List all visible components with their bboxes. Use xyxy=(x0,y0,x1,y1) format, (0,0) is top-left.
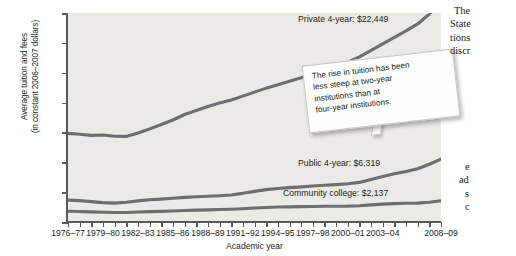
x-tick xyxy=(441,222,442,227)
x-tick xyxy=(185,222,186,227)
x-tick xyxy=(115,222,116,227)
x-tick xyxy=(173,222,174,227)
x-tick xyxy=(103,222,104,227)
body-text-bottom: e ad s c xyxy=(450,160,516,214)
x-tick xyxy=(348,222,349,227)
x-tick-label: 1997–98 xyxy=(296,228,329,238)
series-label-private-4-year: Private 4-year: $22,449 xyxy=(298,14,388,24)
x-tick xyxy=(208,222,209,227)
x-tick xyxy=(220,222,221,227)
x-tick xyxy=(161,222,162,227)
y-tick xyxy=(62,192,68,194)
body-line-bot-3: s xyxy=(450,187,516,200)
body-text-top: The State tions discr xyxy=(450,4,516,58)
x-tick xyxy=(278,222,279,227)
y-tick xyxy=(62,43,68,45)
series-label-community-college: Community college: $2,137 xyxy=(283,188,388,198)
x-tick xyxy=(231,222,232,227)
x-tick xyxy=(91,222,92,227)
x-tick xyxy=(126,222,127,227)
x-tick-label: 2000–01 xyxy=(331,228,364,238)
x-tick xyxy=(150,222,151,227)
body-line-bot-1: e xyxy=(450,160,516,173)
body-line-top-2: State xyxy=(450,17,516,30)
x-tick xyxy=(371,222,372,227)
body-line-top-1: The xyxy=(450,4,516,17)
x-axis-line xyxy=(66,221,441,223)
x-tick xyxy=(290,222,291,227)
x-tick xyxy=(138,222,139,227)
x-tick xyxy=(266,222,267,227)
x-tick xyxy=(336,222,337,227)
y-axis-title: Average tuition and fees (in constant 20… xyxy=(19,0,40,172)
chart-page: Average tuition and fees (in constant 20… xyxy=(0,0,516,256)
body-text-column: The State tions discr e ad s c xyxy=(450,0,516,256)
body-line-bot-4: c xyxy=(450,200,516,213)
y-axis-title-line1: Average tuition and fees xyxy=(19,33,29,120)
x-tick-label: 1985–86 xyxy=(156,228,189,238)
x-tick xyxy=(406,222,407,227)
x-tick xyxy=(68,222,69,227)
y-tick xyxy=(62,13,68,15)
tuition-line-chart: Average tuition and fees (in constant 20… xyxy=(0,0,446,256)
body-line-top-4: discr xyxy=(450,44,516,57)
body-line-top-3: tions xyxy=(450,31,516,44)
y-tick xyxy=(62,162,68,164)
x-tick xyxy=(196,222,197,227)
x-tick xyxy=(359,222,360,227)
x-tick xyxy=(301,222,302,227)
x-tick-label: 1988–89 xyxy=(191,228,224,238)
x-tick xyxy=(418,222,419,227)
x-tick-label: 1991–92 xyxy=(226,228,259,238)
x-tick xyxy=(313,222,314,227)
x-tick xyxy=(383,222,384,227)
x-tick-label: 1994–95 xyxy=(261,228,294,238)
y-tick xyxy=(62,103,68,105)
x-tick xyxy=(394,222,395,227)
x-tick xyxy=(324,222,325,227)
y-tick xyxy=(62,132,68,134)
x-axis-title: Academic year xyxy=(68,241,441,251)
body-line-bot-2: ad xyxy=(450,173,516,186)
y-axis-title-line2: (in constant 2006–2007 dollars) xyxy=(29,20,39,133)
x-tick xyxy=(243,222,244,227)
x-tick xyxy=(429,222,430,227)
x-tick xyxy=(80,222,81,227)
y-tick xyxy=(62,73,68,75)
x-tick-label: 1976–77 xyxy=(51,228,84,238)
series-label-public-4-year: Public 4-year: $6,319 xyxy=(298,158,380,168)
x-tick-label: 1979–80 xyxy=(86,228,119,238)
x-tick-label: 2003–04 xyxy=(366,228,399,238)
x-tick xyxy=(255,222,256,227)
x-tick-label: 1982–83 xyxy=(121,228,154,238)
